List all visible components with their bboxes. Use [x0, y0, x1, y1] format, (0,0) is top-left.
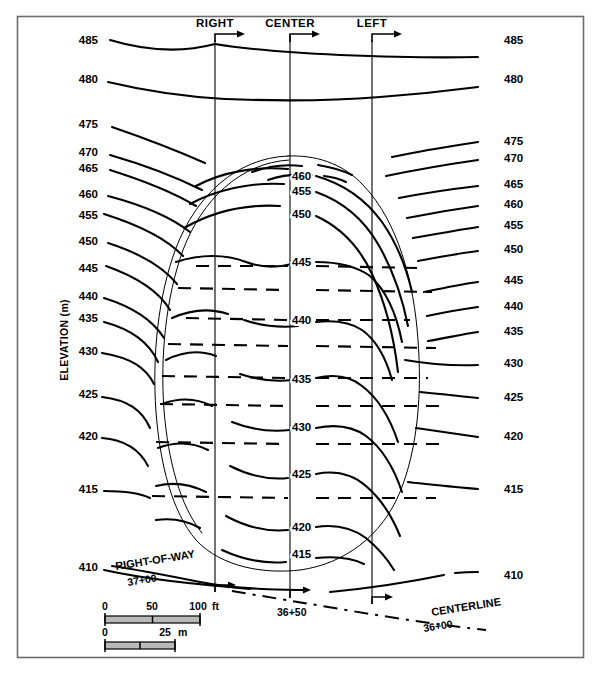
right-axis-label-410: 410 [504, 569, 523, 581]
y-axis-title: ELEVATION (m) [58, 299, 70, 381]
right-axis-label-455: 455 [504, 219, 524, 231]
scale-feet-unit: ft [212, 600, 219, 612]
station-36-50-label: 36+50 [277, 606, 307, 618]
arrowhead-center-station [303, 587, 311, 594]
right-axis-label-435: 435 [504, 325, 524, 337]
left-axis-label-425: 425 [79, 388, 99, 400]
station-37-00-label: 37+00 [126, 571, 157, 587]
dashed-contour-2 [178, 288, 432, 292]
scale-feet-tick-0: 0 [102, 600, 108, 612]
contour-440 [104, 298, 478, 338]
column-header-center: CENTER [265, 17, 315, 29]
right-axis-label-475: 475 [504, 135, 524, 147]
inner-contour-455 [190, 184, 408, 326]
right-axis-label-485: 485 [504, 34, 524, 46]
left-axis-label-475: 475 [79, 118, 99, 130]
scale-meters-tick-0: 0 [102, 626, 108, 638]
contour-410-right [330, 572, 478, 592]
inner-label-420: 420 [292, 521, 311, 533]
arrowhead-center [312, 31, 320, 38]
arrow-left [372, 34, 394, 42]
contour-480 [108, 82, 478, 100]
inner-label-415: 415 [292, 548, 312, 560]
scale-meters-tick-25: 25 [159, 626, 171, 638]
left-axis-label-465: 465 [79, 162, 99, 174]
right-axis-label-425: 425 [504, 391, 524, 403]
arrow-left-station [372, 597, 385, 604]
dashed-contour-6 [160, 404, 440, 406]
inner-label-460: 460 [292, 170, 311, 182]
inner-label-430: 430 [292, 421, 311, 433]
arrow-right [215, 34, 237, 42]
right-axis-label-440: 440 [504, 300, 523, 312]
inner-contour-label-group: 460 455 450 445 440 435 430 425 420 415 [292, 170, 312, 560]
left-axis-label-445: 445 [79, 262, 99, 274]
inner-contour-445 [176, 256, 402, 342]
left-axis-label-415: 415 [79, 483, 99, 495]
contour-445 [106, 266, 478, 310]
arrowhead-left [394, 31, 402, 38]
arrow-center [290, 34, 312, 42]
scale-feet-tick-100: 100 [189, 600, 207, 612]
scale-meters-unit: m [178, 626, 187, 638]
left-axis-label-470: 470 [79, 146, 98, 158]
right-axis-label-460: 460 [504, 198, 523, 210]
left-axis-label-485: 485 [79, 34, 99, 46]
left-axis-label-group: 485 480 475 470 465 460 455 450 445 440 … [79, 34, 99, 573]
scale-feet-tick-50: 50 [146, 600, 158, 612]
right-axis-label-470: 470 [504, 152, 523, 164]
right-axis-label-group: 485 480 475 470 465 460 455 450 445 440 … [504, 34, 524, 581]
column-header-right: RIGHT [196, 17, 234, 29]
left-axis-label-480: 480 [79, 73, 98, 85]
centerline-label: CENTERLINE [430, 595, 501, 618]
inner-contour-435 [166, 353, 398, 442]
column-header-group: RIGHT CENTER LEFT [196, 17, 387, 29]
header-arrow-group [215, 31, 402, 43]
arrowhead-left-station [385, 594, 393, 601]
inner-label-425: 425 [292, 468, 312, 480]
figure-border [18, 17, 584, 658]
dashed-contour-4 [168, 344, 436, 348]
right-axis-label-445: 445 [504, 274, 524, 286]
left-axis-label-460: 460 [79, 188, 98, 200]
right-axis-label-415: 415 [504, 483, 524, 495]
right-axis-label-430: 430 [504, 357, 523, 369]
cross-section-svg: RIGHT CENTER LEFT ELEVATION (m) 485 480 … [0, 0, 599, 676]
left-axis-label-430: 430 [79, 345, 98, 357]
contour-455 [104, 214, 478, 256]
right-axis-label-420: 420 [504, 430, 523, 442]
inner-label-455: 455 [292, 185, 312, 197]
inner-label-435: 435 [292, 373, 312, 385]
inner-label-440: 440 [292, 314, 311, 326]
arrow-center-station [290, 590, 303, 598]
left-axis-label-435: 435 [79, 312, 99, 324]
column-header-left: LEFT [357, 17, 387, 29]
right-axis-label-465: 465 [504, 178, 524, 190]
left-axis-label-450: 450 [79, 235, 98, 247]
inner-label-450: 450 [292, 208, 311, 220]
orebody-outline-inner [163, 160, 289, 533]
arrowhead-right [237, 31, 245, 38]
left-axis-label-440: 440 [79, 290, 98, 302]
figure-canvas: RIGHT CENTER LEFT ELEVATION (m) 485 480 … [0, 0, 599, 676]
right-axis-label-480: 480 [504, 73, 523, 85]
left-axis-label-410: 410 [79, 561, 98, 573]
contour-485 [110, 40, 478, 57]
left-axis-label-420: 420 [79, 430, 98, 442]
left-axis-label-455: 455 [79, 209, 99, 221]
station-36-00-label: 36+00 [422, 617, 453, 633]
right-axis-label-450: 450 [504, 243, 523, 255]
right-of-way-label: RIGHT-OF-WAY [114, 547, 196, 572]
inner-label-445: 445 [292, 256, 312, 268]
contour-435 [104, 322, 478, 362]
dashed-contour-8 [152, 496, 436, 498]
contour-475 [112, 127, 478, 163]
